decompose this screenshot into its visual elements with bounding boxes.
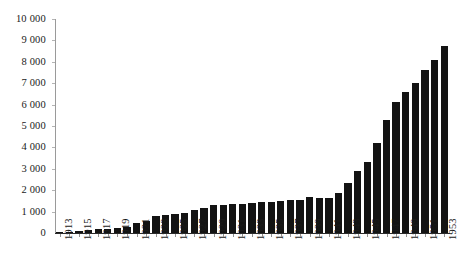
x-axis-line bbox=[55, 233, 450, 234]
x-tick-label: 1921 bbox=[141, 218, 152, 240]
y-tick-label: 3 000 bbox=[21, 164, 46, 175]
x-tick-mark bbox=[425, 234, 426, 237]
x-tick-label: 1929 bbox=[218, 218, 229, 240]
y-axis-line bbox=[55, 19, 56, 234]
x-tick-mark bbox=[444, 234, 445, 237]
y-tick-label: 7 000 bbox=[21, 78, 46, 89]
x-tick-label: 1915 bbox=[83, 218, 94, 240]
bar bbox=[402, 92, 409, 233]
y-tick-label: 0 bbox=[41, 228, 46, 239]
x-tick-label: 1941 bbox=[333, 218, 344, 240]
y-tick-label: 5 000 bbox=[21, 121, 46, 132]
x-tick-label: 1917 bbox=[102, 218, 113, 240]
x-tick-label: 1939 bbox=[314, 218, 325, 240]
x-tick-mark bbox=[310, 234, 311, 237]
bar bbox=[421, 70, 428, 233]
x-tick-label: 1953 bbox=[448, 218, 459, 240]
x-tick-mark bbox=[175, 234, 176, 237]
bar bbox=[392, 102, 399, 233]
x-tick-mark bbox=[406, 234, 407, 237]
x-tick-mark bbox=[194, 234, 195, 237]
x-tick-label: 1949 bbox=[410, 218, 421, 240]
y-tick-label: 8 000 bbox=[21, 57, 46, 68]
x-tick-mark bbox=[387, 234, 388, 237]
y-tick-label: 2 000 bbox=[21, 185, 46, 196]
x-tick-mark bbox=[156, 234, 157, 237]
y-tick-label: 10 000 bbox=[16, 14, 46, 25]
x-tick-label: 1919 bbox=[121, 218, 132, 240]
x-tick-label: 1951 bbox=[429, 218, 440, 240]
y-tick-label: 6 000 bbox=[21, 99, 46, 110]
x-tick-label: 1925 bbox=[179, 218, 190, 240]
plot-area bbox=[55, 19, 449, 233]
x-tick-mark bbox=[348, 234, 349, 237]
x-tick-mark bbox=[367, 234, 368, 237]
bar bbox=[441, 46, 448, 233]
x-tick-mark bbox=[290, 234, 291, 237]
x-tick-label: 1947 bbox=[391, 218, 402, 240]
x-tick-mark bbox=[233, 234, 234, 237]
x-tick-mark bbox=[271, 234, 272, 237]
bar bbox=[383, 120, 390, 233]
bars-layer bbox=[55, 19, 449, 233]
x-tick-label: 1923 bbox=[160, 218, 171, 240]
x-tick-mark bbox=[79, 234, 80, 237]
x-tick-label: 1913 bbox=[64, 218, 75, 240]
x-tick-label: 1945 bbox=[371, 218, 382, 240]
x-tick-mark bbox=[60, 234, 61, 237]
bar bbox=[412, 83, 419, 233]
x-tick-label: 1927 bbox=[198, 218, 209, 240]
x-tick-label: 1935 bbox=[275, 218, 286, 240]
x-tick-mark bbox=[252, 234, 253, 237]
x-tick-label: 1937 bbox=[294, 218, 305, 240]
x-tick-mark bbox=[98, 234, 99, 237]
x-tick-label: 1933 bbox=[256, 218, 267, 240]
x-tick-label: 1931 bbox=[237, 218, 248, 240]
x-tick-label: 1943 bbox=[352, 218, 363, 240]
y-tick-label: 4 000 bbox=[21, 142, 46, 153]
x-tick-mark bbox=[214, 234, 215, 237]
y-axis: 10 0009 0008 0007 0006 0005 0004 0003 00… bbox=[0, 0, 50, 280]
y-tick-label: 1 000 bbox=[21, 206, 46, 217]
x-tick-mark bbox=[117, 234, 118, 237]
x-tick-mark bbox=[137, 234, 138, 237]
y-tick-label: 9 000 bbox=[21, 35, 46, 46]
bar bbox=[431, 60, 438, 233]
x-tick-mark bbox=[329, 234, 330, 237]
